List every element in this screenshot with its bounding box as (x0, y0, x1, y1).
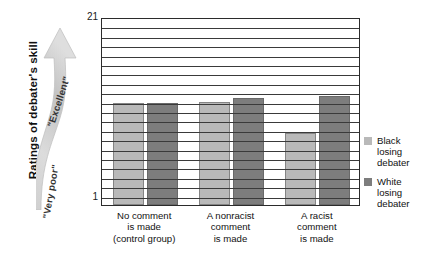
bar (233, 98, 264, 205)
y-tick-label-max: 21 (72, 11, 98, 22)
legend-label-line: losing (377, 146, 430, 157)
chart-container: Ratings of debater's skill "Excellent" "… (0, 0, 430, 262)
x-axis-label-line: (control group) (98, 233, 190, 244)
x-axis-label-line: is made (185, 233, 277, 244)
bar (113, 103, 144, 205)
gridline (102, 57, 359, 58)
x-axis-label-line: comment (185, 221, 277, 232)
legend-item[interactable]: Blacklosingdebater (364, 135, 430, 169)
scale-arrow: "Excellent" "Very poor" (36, 14, 86, 210)
scale-arrow-icon (36, 14, 86, 210)
legend-item[interactable]: Whitelosingdebater (364, 176, 430, 210)
x-axis-label-line: A nonracist (185, 210, 277, 221)
x-axis-label: A nonracistcommentis made (185, 210, 277, 244)
y-tick-label-min: 1 (72, 191, 98, 202)
gridline (102, 28, 359, 29)
gridline (102, 66, 359, 67)
legend-label-line: Black (377, 135, 430, 146)
legend-swatch (364, 137, 372, 145)
x-axis-label-line: is made (271, 233, 363, 244)
plot-area (101, 18, 360, 206)
bar (285, 133, 316, 205)
x-axis-label-line: No comment (98, 210, 190, 221)
legend-swatch (364, 178, 372, 186)
legend-label-line: losing (377, 187, 430, 198)
legend-label-line: White (377, 176, 430, 187)
legend-label-line: debater (377, 198, 430, 209)
bar (319, 96, 350, 205)
gridline (102, 85, 359, 86)
gridline (102, 47, 359, 48)
legend: BlacklosingdebaterWhitelosingdebater (364, 135, 430, 216)
x-axis-label: No commentis made(control group) (98, 210, 190, 244)
x-axis-label-line: is made (98, 221, 190, 232)
x-axis-label-line: comment (271, 221, 363, 232)
bar (199, 102, 230, 205)
gridline (102, 38, 359, 39)
legend-label-line: debater (377, 157, 430, 168)
bar (147, 103, 178, 205)
gridline (102, 75, 359, 76)
x-axis-label: A racistcommentis made (271, 210, 363, 244)
x-axis-label-line: A racist (271, 210, 363, 221)
